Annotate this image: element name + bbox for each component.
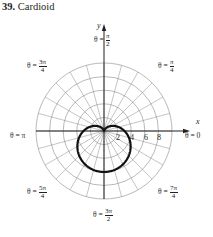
grid-ray xyxy=(104,72,138,131)
fraction: 7π4 xyxy=(170,185,178,200)
denominator: 4 xyxy=(170,67,174,74)
angle-prefix: θ = xyxy=(27,187,37,196)
grid-ray xyxy=(70,131,104,190)
grid-ray xyxy=(38,113,104,131)
angle-prefix: θ = xyxy=(27,61,37,70)
angle-label-3pi-half: θ = 3π2 xyxy=(93,208,113,223)
tick-label: 2 xyxy=(116,134,120,142)
fraction: 3π4 xyxy=(39,59,47,74)
angle-label-3pi-quarter: θ = 3π4 xyxy=(27,59,47,74)
y-axis-label: y xyxy=(97,22,101,30)
angle-prefix: θ = xyxy=(94,35,104,44)
grid-ray xyxy=(104,65,122,131)
grid-ray xyxy=(56,83,104,131)
y-axis-arrow-icon xyxy=(102,24,106,31)
angle-prefix: θ = xyxy=(93,210,103,219)
fraction: 3π2 xyxy=(105,208,113,223)
angle-label-pi-half: θ = π2 xyxy=(94,33,110,48)
fraction: π4 xyxy=(170,59,175,74)
angle-label-pi: θ = π xyxy=(10,132,25,140)
denominator: 4 xyxy=(41,67,45,74)
angle-label-7pi-quarter: θ = 7π4 xyxy=(158,185,178,200)
angle-prefix: θ = xyxy=(158,61,168,70)
fraction: π2 xyxy=(106,33,111,48)
grid-ray xyxy=(104,83,152,131)
grid-ray xyxy=(45,131,104,165)
grid-ray xyxy=(86,65,104,131)
angle-label-zero: θ = 0 xyxy=(185,132,200,140)
tick-label: 4 xyxy=(130,134,134,142)
denominator: 2 xyxy=(106,41,110,48)
grid-ray xyxy=(86,131,104,197)
grid-ray xyxy=(38,131,104,149)
tick-label: 8 xyxy=(157,134,161,142)
angle-label-5pi-quarter: θ = 5π4 xyxy=(27,185,47,200)
tick-label: 6 xyxy=(144,134,148,142)
angle-label-pi-quarter: θ = π4 xyxy=(158,59,174,74)
denominator: 4 xyxy=(41,193,45,200)
grid-ray xyxy=(70,72,104,131)
fraction: 5π4 xyxy=(39,185,47,200)
denominator: 4 xyxy=(172,193,176,200)
x-axis-label: x xyxy=(196,118,200,126)
grid-ray xyxy=(104,113,170,131)
angle-prefix: θ = xyxy=(158,187,168,196)
denominator: 2 xyxy=(107,216,111,223)
